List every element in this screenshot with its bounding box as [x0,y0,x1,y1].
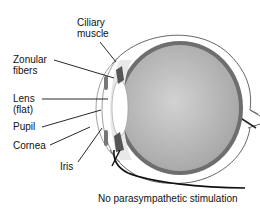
label-zonular-line1: Zonular [13,54,47,65]
vitreous-body [121,45,239,171]
label-lens-line1: Lens [13,93,35,104]
iris [104,76,108,146]
label-zonular-line2: fibers [13,65,47,76]
lens [112,80,128,136]
label-ciliary-muscle: Ciliary muscle [77,17,109,39]
label-lens: Lens (flat) [13,93,35,115]
label-iris: Iris [60,161,73,172]
eye-diagram [0,0,260,214]
label-zonular-fibers: Zonular fibers [13,54,47,76]
caption: No parasympathetic stimulation [98,193,238,204]
label-cornea: Cornea [13,140,46,151]
label-pupil: Pupil [13,121,35,132]
label-lens-line2: (flat) [13,104,35,115]
label-ciliary-line1: Ciliary [77,17,109,28]
label-ciliary-line2: muscle [77,28,109,39]
